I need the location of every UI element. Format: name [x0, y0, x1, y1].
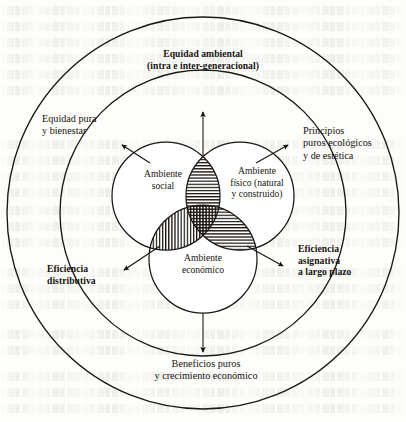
diagram-canvas: Equidad ambiental (intra e inter-generac… — [0, 0, 406, 422]
label-ambiente-economico: Ambiente económico — [161, 252, 245, 275]
label-eficiencia-distributiva: Eficiencia distributiva — [47, 263, 137, 286]
label-equidad-pura-bienestar: Equidad pura y bienestar — [42, 113, 137, 138]
label-principios-ecologicos: Principios puros ecológicos y de estétic… — [303, 125, 403, 162]
label-beneficios-puros: Beneficios puros y crecimiento económico — [118, 358, 294, 383]
label-ambiente-fisico: Ambiente físico (natural y construido) — [215, 165, 299, 200]
label-eficiencia-asignativa: Eficiencia asignativa a largo plazo — [298, 243, 398, 278]
label-equidad-ambiental: Equidad ambiental (intra e inter-generac… — [113, 48, 293, 71]
label-ambiente-social: Ambiente social — [121, 168, 205, 191]
